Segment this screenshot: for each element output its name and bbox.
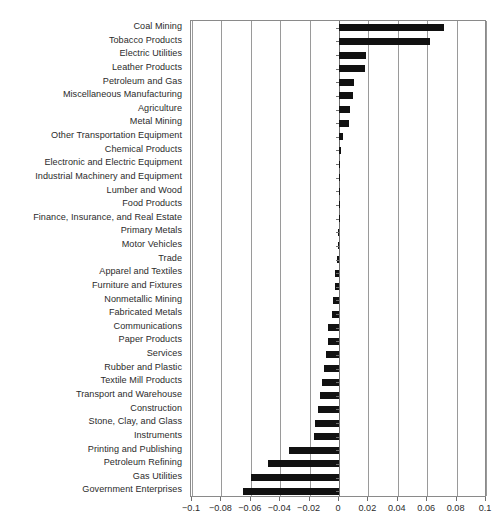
category-label: Communications xyxy=(114,322,182,331)
y-tick xyxy=(336,450,339,451)
category-label: Miscellaneous Manufacturing xyxy=(63,90,182,99)
category-label: Electric Utilities xyxy=(119,49,182,58)
category-label: Agriculture xyxy=(138,104,182,113)
horizontal-bar-chart: Coal MiningTobacco ProductsElectric Util… xyxy=(0,0,499,530)
category-label: Tobacco Products xyxy=(109,36,182,45)
bar xyxy=(339,106,350,113)
y-tick xyxy=(336,96,339,97)
bar xyxy=(339,215,340,222)
y-tick xyxy=(336,110,339,111)
bar xyxy=(251,474,339,481)
y-tick xyxy=(336,55,339,56)
bar xyxy=(339,52,366,59)
category-label: Finance, Insurance, and Real Estate xyxy=(33,213,182,222)
x-tick-label: 0.06 xyxy=(417,503,435,513)
y-tick xyxy=(336,260,339,261)
y-tick xyxy=(336,28,339,29)
bar xyxy=(339,188,340,195)
y-tick xyxy=(336,164,339,165)
category-label: Services xyxy=(147,349,182,358)
y-tick xyxy=(336,69,339,70)
gridline-0.1 xyxy=(486,21,487,496)
y-tick xyxy=(336,205,339,206)
category-label: Lumber and Wood xyxy=(107,186,182,195)
y-tick xyxy=(336,382,339,383)
category-label: Construction xyxy=(130,404,182,413)
x-tick-label: 0.08 xyxy=(447,503,465,513)
x-tick xyxy=(367,497,368,501)
x-tick-label: 0 xyxy=(335,503,340,513)
bar xyxy=(289,447,339,454)
y-tick xyxy=(336,41,339,42)
bar xyxy=(339,24,444,31)
y-tick xyxy=(336,300,339,301)
category-label: Paper Products xyxy=(119,335,182,344)
x-tick-label: −0.08 xyxy=(209,503,232,513)
plot-area xyxy=(190,20,486,497)
category-label: Nonmetallic Mining xyxy=(104,295,182,304)
y-tick xyxy=(336,491,339,492)
category-label: Furniture and Fixtures xyxy=(92,281,182,290)
x-tick xyxy=(456,497,457,501)
category-label: Metal Mining xyxy=(130,117,182,126)
bar xyxy=(339,201,340,208)
category-label: Leather Products xyxy=(112,63,182,72)
y-tick xyxy=(336,396,339,397)
bar xyxy=(268,460,339,467)
y-tick xyxy=(336,423,339,424)
y-tick xyxy=(336,314,339,315)
y-tick xyxy=(336,273,339,274)
y-tick xyxy=(336,437,339,438)
y-tick xyxy=(336,369,339,370)
category-label: Industrial Machinery and Equipment xyxy=(35,172,182,181)
category-label: Other Transportation Equipment xyxy=(51,131,182,140)
y-tick xyxy=(336,246,339,247)
bar xyxy=(339,161,340,168)
category-label: Chemical Products xyxy=(105,145,182,154)
category-label: Printing and Publishing xyxy=(88,445,182,454)
x-tick xyxy=(191,497,192,501)
category-label: Rubber and Plastic xyxy=(104,363,182,372)
x-tick xyxy=(220,497,221,501)
category-label: Textile Mill Products xyxy=(101,376,182,385)
bar xyxy=(339,92,353,99)
category-label: Fabricated Metals xyxy=(109,308,182,317)
y-tick xyxy=(336,123,339,124)
x-tick xyxy=(485,497,486,501)
x-tick xyxy=(397,497,398,501)
x-tick-label: 0.02 xyxy=(359,503,377,513)
x-tick-label: −0.06 xyxy=(238,503,261,513)
category-label: Apparel and Textiles xyxy=(99,267,182,276)
bar xyxy=(339,65,365,72)
x-tick-label: −0.04 xyxy=(268,503,291,513)
category-label: Petroleum Refining xyxy=(104,458,182,467)
category-label: Instruments xyxy=(134,431,182,440)
category-label: Stone, Clay, and Glass xyxy=(89,417,182,426)
bar xyxy=(339,147,341,154)
y-tick xyxy=(336,464,339,465)
x-tick-label: 0.1 xyxy=(479,503,492,513)
bar xyxy=(339,174,340,181)
x-tick xyxy=(338,497,339,501)
category-label: Transport and Warehouse xyxy=(76,390,182,399)
category-label: Primary Metals xyxy=(121,226,182,235)
y-tick xyxy=(336,328,339,329)
y-tick xyxy=(336,341,339,342)
bar xyxy=(339,79,354,86)
bars-layer xyxy=(191,21,485,496)
x-tick-label: 0.04 xyxy=(388,503,406,513)
y-tick xyxy=(336,191,339,192)
y-tick xyxy=(336,287,339,288)
category-label: Motor Vehicles xyxy=(122,240,182,249)
category-label: Government Enterprises xyxy=(82,485,182,494)
category-label: Petroleum and Gas xyxy=(103,77,182,86)
x-tick xyxy=(309,497,310,501)
x-tick xyxy=(279,497,280,501)
bar xyxy=(339,120,349,127)
bar xyxy=(339,38,430,45)
x-tick xyxy=(426,497,427,501)
category-label: Trade xyxy=(158,254,182,263)
bar xyxy=(243,488,339,495)
y-tick xyxy=(336,137,339,138)
bar xyxy=(339,133,343,140)
